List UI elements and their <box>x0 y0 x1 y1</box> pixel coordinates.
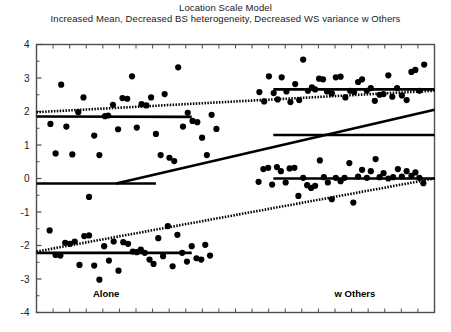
data-point <box>404 168 410 174</box>
data-point <box>160 253 166 259</box>
data-point <box>321 174 327 180</box>
data-point <box>320 76 326 82</box>
y-tick-label: -3 <box>21 274 30 285</box>
data-point <box>416 88 422 94</box>
data-point <box>266 73 272 79</box>
data-point <box>115 268 121 274</box>
data-point <box>150 261 156 267</box>
data-point <box>86 194 92 200</box>
data-point <box>198 256 204 262</box>
data-point <box>101 243 107 249</box>
data-point <box>420 180 426 186</box>
data-point <box>412 67 418 73</box>
data-point <box>194 119 200 125</box>
data-point <box>394 85 400 91</box>
data-point <box>300 56 306 62</box>
data-point <box>329 90 335 96</box>
data-point <box>75 109 81 115</box>
data-point <box>312 86 318 92</box>
data-point <box>91 133 97 139</box>
y-tick-label: -4 <box>21 307 30 318</box>
data-point <box>278 168 284 174</box>
data-point <box>312 183 318 189</box>
data-point <box>111 238 117 244</box>
data-point <box>47 227 53 233</box>
data-point <box>359 76 365 82</box>
data-point <box>170 263 176 269</box>
data-point <box>385 72 391 78</box>
data-point <box>110 102 116 108</box>
data-point <box>399 92 405 98</box>
group-label: Alone <box>93 288 119 299</box>
y-tick-label: -2 <box>21 240 30 251</box>
data-point <box>346 160 352 166</box>
data-point <box>359 167 365 173</box>
data-point <box>372 156 378 162</box>
data-point <box>155 235 161 241</box>
data-point <box>325 179 331 185</box>
data-point <box>204 152 210 158</box>
data-point <box>171 158 177 164</box>
data-point <box>153 131 159 137</box>
data-point <box>105 112 111 118</box>
y-tick-label: 2 <box>24 106 30 117</box>
data-point <box>265 165 271 171</box>
data-point <box>368 168 374 174</box>
data-point <box>283 179 289 185</box>
data-point <box>364 175 370 181</box>
y-tick-label: 0 <box>24 173 30 184</box>
data-point <box>162 91 168 97</box>
data-point <box>47 121 53 127</box>
data-point <box>184 258 190 264</box>
data-point <box>58 82 64 88</box>
data-point <box>213 126 219 132</box>
data-point <box>279 74 285 80</box>
data-point <box>124 96 130 102</box>
data-point <box>291 165 297 171</box>
data-point <box>342 94 348 100</box>
data-point <box>80 94 86 100</box>
data-point <box>404 97 410 103</box>
data-point <box>106 257 112 263</box>
data-point <box>337 74 343 80</box>
y-tick-label: 1 <box>24 140 30 151</box>
data-point <box>287 99 293 105</box>
data-point <box>300 175 306 181</box>
data-point <box>416 175 422 181</box>
data-point <box>412 169 418 175</box>
data-point <box>283 88 289 94</box>
data-point <box>399 173 405 179</box>
data-point <box>350 200 356 206</box>
data-point <box>389 94 395 100</box>
data-point <box>125 241 131 247</box>
scatter-plot: -4-3-2-101234 Alonew Others <box>0 0 451 332</box>
data-point <box>174 232 180 238</box>
data-point <box>329 196 335 202</box>
data-point <box>76 262 82 268</box>
y-tick-label: 4 <box>24 39 30 50</box>
data-point <box>199 135 205 141</box>
data-point <box>202 242 208 248</box>
data-point <box>207 252 213 258</box>
data-point <box>380 170 386 176</box>
data-point <box>72 238 78 244</box>
data-point <box>143 102 149 108</box>
data-point <box>129 73 135 79</box>
data-point <box>261 98 267 104</box>
data-point <box>269 181 275 187</box>
y-tick-label: 3 <box>24 73 30 84</box>
chart-figure: Location Scale Model Increased Mean, Dec… <box>0 0 451 332</box>
data-point <box>296 97 302 103</box>
data-point <box>179 250 185 256</box>
data-point <box>189 243 195 249</box>
data-point <box>275 96 281 102</box>
data-point <box>158 152 164 158</box>
data-point <box>256 89 262 95</box>
y-tick-label: -1 <box>21 207 30 218</box>
data-point <box>180 123 186 129</box>
data-point <box>134 124 140 130</box>
data-point <box>292 81 298 87</box>
data-point <box>96 152 102 158</box>
data-point <box>185 110 191 116</box>
data-point <box>57 252 63 258</box>
